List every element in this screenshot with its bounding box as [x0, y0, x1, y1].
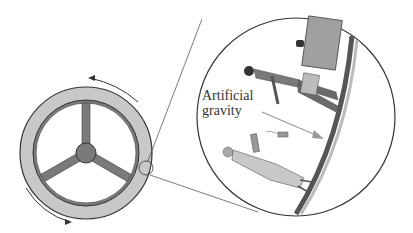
label-line-1: Artificial — [202, 88, 253, 103]
station-wheel — [20, 87, 152, 219]
diagram-canvas: Artificial gravity — [0, 0, 413, 233]
artificial-gravity-label: Artificial gravity — [202, 88, 253, 118]
label-line-2: gravity — [202, 103, 253, 118]
